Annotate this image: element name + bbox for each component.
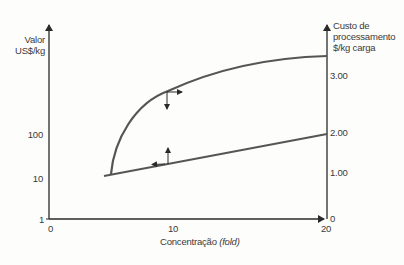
x-axis-title: Concentração (fold) [160, 236, 240, 247]
right-axis-title-line1: Custo de [333, 20, 395, 31]
value-curve [111, 56, 327, 174]
y-right-tick-2: 2.00 [330, 127, 348, 138]
curve-arrows-icon [167, 92, 182, 109]
y-left-tick-1: 1 [10, 214, 44, 225]
left-axis-title-line2: US$/kg [0, 45, 45, 56]
line-arrows-icon [152, 148, 168, 165]
left-axis-title-line1: Valor [0, 34, 45, 45]
right-axis-title-line2: processamento [333, 31, 395, 42]
x-axis-title-unit: (fold) [219, 236, 239, 247]
left-axis-title: Valor US$/kg [0, 34, 45, 56]
right-axis-title-line3: $/kg carga [333, 42, 395, 53]
y-left-tick-100: 100 [10, 129, 43, 140]
right-axis-title: Custo de processamento $/kg carga [333, 20, 395, 53]
y-left-tick-10: 10 [10, 173, 43, 184]
cost-line [104, 134, 327, 176]
x-tick-10: 10 [168, 223, 178, 234]
x-tick-20: 20 [321, 223, 331, 234]
x-axis-title-text: Concentração [160, 236, 217, 247]
x-tick-0: 0 [48, 223, 53, 234]
y-right-tick-3: 3.00 [330, 70, 348, 81]
y-right-tick-1: 1.00 [330, 167, 348, 178]
